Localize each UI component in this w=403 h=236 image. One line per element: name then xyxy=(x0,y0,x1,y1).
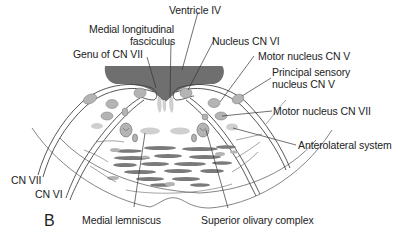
label-cn-vi: CN VI xyxy=(35,189,63,201)
label-motor-nucleus-cn-v: Motor nucleus CN V xyxy=(258,51,350,63)
label-anterolateral-system: Anterolateral system xyxy=(298,140,392,152)
label-principal-sensory-line1: Principal sensory xyxy=(272,67,350,79)
ventricle-iv-shape xyxy=(105,66,224,102)
label-ventricle-iv: Ventricle IV xyxy=(169,5,221,17)
label-medial-lemniscus: Medial lemniscus xyxy=(82,215,161,227)
label-genu-cn-vii: Genu of CN VII xyxy=(73,49,143,61)
label-mlf-line1: Medial longitudinal xyxy=(89,24,174,36)
label-nucleus-cn-vi: Nucleus CN VI xyxy=(212,36,280,48)
label-superior-olivary-complex: Superior olivary complex xyxy=(201,215,314,227)
pons-cross-section-diagram xyxy=(0,0,403,236)
label-principal-sensory-line2: nucleus CN V xyxy=(272,79,335,91)
nuclei-left xyxy=(82,88,146,120)
light-fiber-islands xyxy=(107,148,238,186)
panel-letter: B xyxy=(44,212,55,230)
nuclei-right xyxy=(180,88,245,120)
pons-outline xyxy=(32,128,332,208)
label-mlf-line2: fasciculus xyxy=(130,36,175,48)
superior-olivary-complex xyxy=(120,123,209,142)
label-cn-vii: CN VII xyxy=(11,175,41,187)
label-motor-nucleus-cn-vii: Motor nucleus CN VII xyxy=(273,106,371,118)
